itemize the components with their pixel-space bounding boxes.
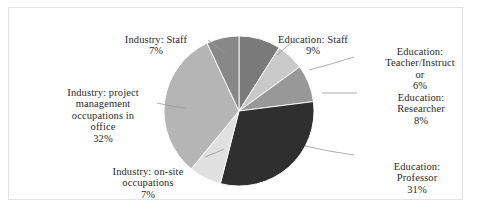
slice-label-industry-staff: Industry: Staff 7%	[97, 22, 215, 68]
slice-label-percent: 7%	[83, 189, 213, 201]
slice-label-percent: 8%	[365, 115, 477, 127]
slice-label-text: Education: Professor	[394, 161, 441, 184]
pie-chart-figure: Industry: Staff 7% Education: Staff 9% E…	[0, 0, 478, 214]
slice-label-percent: 31%	[361, 184, 473, 196]
leader-line-education-professor	[305, 146, 354, 155]
slice-label-text: Education: Staff	[278, 34, 348, 45]
slice-label-education-staff: Education: Staff 9%	[253, 22, 373, 68]
slice-label-industry-project-management: Industry: project management occupations…	[41, 75, 165, 156]
chart-frame-border: Industry: Staff 7% Education: Staff 9% E…	[8, 7, 463, 200]
chart-plot-area: Industry: Staff 7% Education: Staff 9% E…	[9, 8, 462, 199]
slice-label-text: Education: Researcher	[397, 92, 445, 115]
slice-label-education-professor: Education: Professor 31%	[361, 149, 473, 207]
slice-label-industry-onsite: Industry: on-site occupations 7%	[83, 154, 213, 212]
slice-label-text: Industry: project management occupations…	[67, 87, 138, 133]
slice-label-text: Industry: on-site occupations	[113, 166, 184, 189]
slice-label-text: Industry: Staff	[125, 34, 187, 45]
slice-label-percent: 9%	[253, 45, 373, 57]
slice-label-percent: 7%	[97, 45, 215, 57]
slice-label-percent: 32%	[41, 133, 165, 145]
slice-label-education-researcher: Education: Researcher 8%	[365, 80, 477, 138]
slice-label-text: Education: Teacher/Instruct or	[385, 46, 455, 80]
